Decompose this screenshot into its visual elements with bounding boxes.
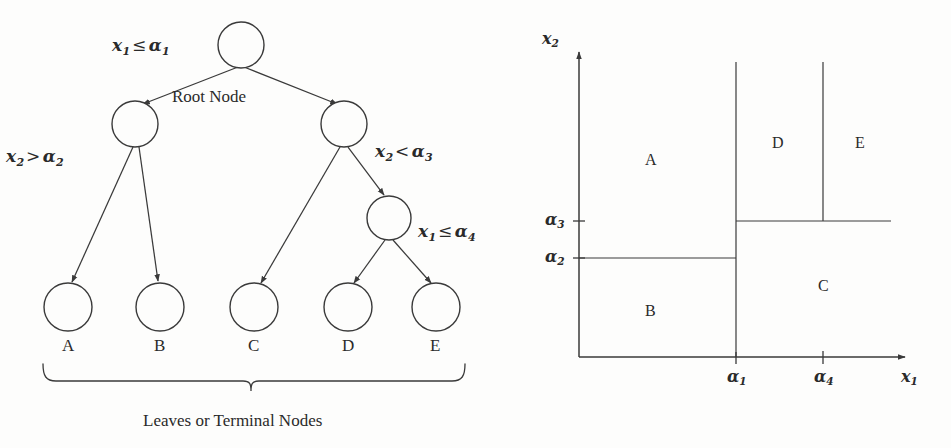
- leaves-brace-caption: Leaves or Terminal Nodes: [143, 412, 322, 429]
- partition-y-tick-label-a3: α3: [545, 212, 565, 230]
- tree-node-internal-sub: [367, 196, 411, 240]
- tree-node-internal-left: [112, 101, 158, 147]
- tree-leaf-label-a: A: [62, 337, 74, 354]
- partition-region-label-a: A: [645, 152, 657, 168]
- tree-edges: [72, 67, 431, 283]
- tree-leaf-b: [136, 283, 184, 331]
- partition-y-tick-label-a2: α2: [545, 249, 565, 267]
- leaves-brace: [43, 364, 465, 391]
- edge-right-to-leaf-c: [261, 147, 340, 283]
- tree-leaf-c: [230, 283, 278, 331]
- partition-region-label-e: E: [855, 135, 865, 151]
- edge-sub-to-leaf-e: [393, 240, 431, 283]
- partition-y-axis-label: x2: [542, 31, 559, 49]
- tree-node-internal-right: [321, 101, 367, 147]
- partition-x-tick-label-a1: α1: [727, 369, 747, 387]
- tree-leaf-nodes: [44, 283, 460, 331]
- edge-left-to-leaf-b: [139, 147, 158, 281]
- tree-split-label-right: x2<α3: [375, 143, 433, 163]
- partition-split-lines: [579, 62, 891, 357]
- tree-split-label-sub: x1≤α4: [418, 223, 476, 243]
- edge-sub-to-leaf-d: [354, 240, 385, 283]
- tree-split-label-root: x1≤α1: [112, 37, 170, 57]
- partition-region-label-b: B: [645, 303, 656, 319]
- partition-x-axis-label: x1: [901, 369, 918, 387]
- partition-ticks: [573, 221, 823, 364]
- figure-canvas: x1≤α1 Root Node x2>α2 x2<α3 x1≤α4 A B C …: [0, 0, 951, 448]
- tree-leaf-a: [44, 283, 92, 331]
- tree-leaf-label-d: D: [342, 337, 354, 354]
- edge-root-to-right: [244, 67, 337, 104]
- partition-axes: [579, 52, 905, 357]
- partition-region-label-c: C: [818, 278, 829, 294]
- tree-split-label-left: x2>α2: [6, 148, 64, 168]
- tree-leaf-label-b: B: [154, 337, 165, 354]
- tree-leaf-label-c: C: [248, 337, 259, 354]
- tree-leaf-d: [324, 283, 372, 331]
- partition-x-tick-label-a4: α4: [814, 369, 834, 387]
- tree-node-root: [218, 22, 264, 68]
- edge-left-to-leaf-a: [72, 147, 133, 282]
- partition-region-label-d: D: [772, 135, 784, 151]
- root-node-caption: Root Node: [172, 88, 246, 105]
- tree-leaf-label-e: E: [430, 337, 440, 354]
- tree-leaf-e: [412, 283, 460, 331]
